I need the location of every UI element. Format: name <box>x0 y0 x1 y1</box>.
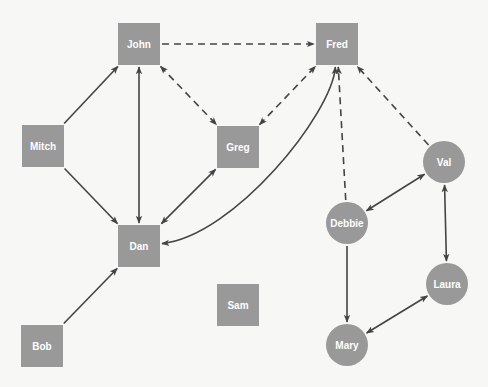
node-label: Sam <box>227 300 248 311</box>
node-laura: Laura <box>426 263 468 305</box>
node-mitch: Mitch <box>22 125 64 167</box>
edge-bob-dan <box>64 268 117 323</box>
node-label: Laura <box>433 279 461 290</box>
sociogram-diagram: JohnFredMitchGregDanSamBobValDebbieLaura… <box>0 0 488 387</box>
nodes: JohnFredMitchGregDanSamBobValDebbieLaura… <box>21 23 468 367</box>
edge-mitch-dan <box>65 168 118 223</box>
node-john: John <box>118 23 160 65</box>
node-label: John <box>127 39 151 50</box>
node-fred: Fred <box>316 23 358 65</box>
edge-mitch-john <box>64 66 118 123</box>
node-val: Val <box>423 141 465 183</box>
node-label: Dan <box>130 241 149 252</box>
edge-debbie-val <box>366 174 424 211</box>
node-label: Bob <box>32 341 51 352</box>
edge-john-greg <box>161 66 217 124</box>
node-debbie: Debbie <box>326 202 368 244</box>
node-dan: Dan <box>118 225 160 267</box>
edge-laura-mary <box>367 296 428 333</box>
edge-val-fred <box>357 66 428 144</box>
node-label: Mitch <box>30 141 56 152</box>
edge-greg-fred <box>260 66 316 124</box>
edge-debbie-fred <box>338 67 345 200</box>
node-sam: Sam <box>217 284 259 326</box>
node-bob: Bob <box>21 325 63 367</box>
node-mary: Mary <box>326 324 368 366</box>
edge-val-laura <box>445 185 447 261</box>
node-label: Mary <box>335 340 359 351</box>
node-label: Debbie <box>330 218 364 229</box>
node-label: Val <box>437 157 452 168</box>
node-label: Fred <box>326 39 348 50</box>
node-label: Greg <box>226 142 249 153</box>
node-greg: Greg <box>217 126 259 168</box>
edge-dan-greg <box>161 169 215 223</box>
